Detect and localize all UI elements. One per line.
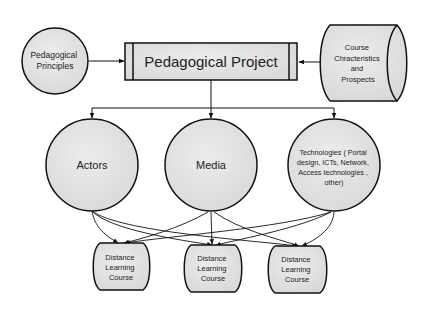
course-label-line-3: and [351,64,364,73]
principles-label-line-2: Principles [37,61,74,71]
dl2-label-line-2: Learning [197,264,226,273]
edge-actors-to-dl1 [92,211,118,243]
actors-label: Actors [76,159,108,171]
node-course-characteristics[interactable]: Course Chracteristics and Prospects [320,25,407,101]
course-label-line-2: Chracteristics [334,54,380,63]
svg-text:Distance Learning: Distance Learning Course [197,254,228,283]
edge-bus-horizontal [92,108,334,118]
dl2-label-line-3: Course [201,274,225,283]
dl1-label-line-3: Course [109,273,133,282]
course-label-line-1: Course [345,43,369,52]
node-technologies[interactable]: Technologies ( Portal design, ICTs, Netw… [288,119,380,211]
svg-text:Pedagogical Principles: Pedagogical Principles [30,50,79,71]
principles-label-line-1: Pedagogical [30,50,77,60]
node-pedagogical-principles[interactable]: Pedagogical Principles [22,28,88,94]
project-label: Pedagogical Project [144,53,278,70]
diagram-canvas: Pedagogical Principles Pedagogical Proje… [0,0,425,312]
dl3-label-line-2: Learning [281,265,310,274]
edge-media-to-dl2 [211,212,212,244]
edge-actors-to-dl3 [92,211,297,246]
edge-media-to-dl1 [124,212,208,243]
node-media[interactable]: Media [165,119,257,211]
node-distance-learning-course-3[interactable]: Distance Learning Course [268,246,327,293]
edge-tech-to-dl3 [302,212,334,246]
technologies-label-line-1: Technologies ( Portal [299,148,367,157]
node-distance-learning-course-1[interactable]: Distance Learning Course [93,243,150,290]
technologies-label-line-3: Access technologies , [298,168,368,177]
media-label: Media [196,159,227,171]
technologies-label-line-4: other) [325,178,344,187]
edge-media-to-dl3 [214,212,299,246]
node-pedagogical-project[interactable]: Pedagogical Project [125,43,297,80]
technologies-label-line-2: design, ICTs, Network, [297,158,369,167]
dl1-label-line-1: Distance [105,253,134,262]
dl1-label-line-2: Learning [105,263,134,272]
dl3-label-line-3: Course [285,275,309,284]
dl3-label-line-1: Distance [281,255,310,264]
node-actors[interactable]: Actors [46,119,138,211]
course-label-line-4: Prospects [341,75,375,84]
node-distance-learning-course-2[interactable]: Distance Learning Course [184,245,242,292]
edges-bottom [92,211,334,246]
svg-text:Distance Learning: Distance Learning Course [281,255,312,284]
svg-text:Distance Learning: Distance Learning Course [105,253,136,282]
dl2-label-line-1: Distance [197,254,226,263]
